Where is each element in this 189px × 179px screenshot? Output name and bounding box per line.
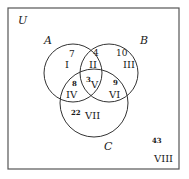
region-ii-label: II (89, 59, 97, 70)
region-vii-label: VII (84, 110, 100, 121)
region-iv-label: IV (66, 89, 78, 100)
set-label-c: C (104, 140, 113, 153)
region-vi-label: VI (108, 89, 120, 100)
region-viii-label: VIII (153, 153, 173, 164)
region-iii-count: 10 (116, 48, 128, 58)
set-label-b: B (139, 34, 148, 47)
region-i-label: I (65, 59, 69, 70)
region-i-count: 7 (69, 49, 75, 59)
region-v-label: V (90, 79, 99, 90)
venn-diagram: U A B C 7 I 4 III II 10 III 8 IV 3 V 9 V… (0, 0, 189, 179)
region-iv-count: 8 (72, 79, 77, 88)
set-label-a: A (43, 34, 52, 47)
region-vi-count: 9 (113, 78, 118, 87)
region-vii-count: 22 (71, 108, 81, 117)
universe-label: U (18, 14, 28, 27)
region-ii-count: 4 (93, 48, 99, 58)
region-iii-label: III (123, 59, 135, 70)
region-viii-count: 43 (152, 136, 162, 145)
